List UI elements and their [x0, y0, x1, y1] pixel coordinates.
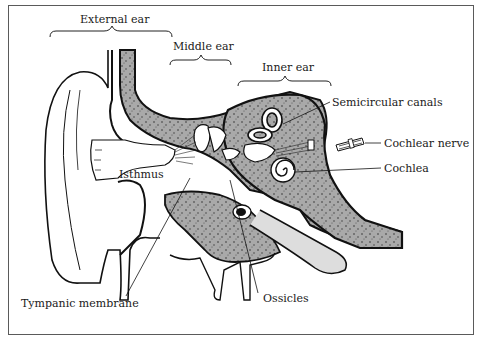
label-semicircular-canals: Semicircular canals	[332, 97, 443, 108]
label-cochlear-nerve: Cochlear nerve	[384, 138, 469, 149]
label-tympanic-membrane: Tympanic membrane	[21, 298, 139, 309]
round-window	[233, 205, 251, 219]
label-external-ear: External ear	[80, 14, 149, 25]
label-middle-ear: Middle ear	[173, 41, 234, 52]
label-cochlea: Cochlea	[384, 163, 429, 174]
cochlea	[271, 158, 295, 182]
brace-middle-ear	[170, 55, 231, 65]
cochlear-nerve-stub	[336, 138, 364, 151]
brace-external-ear	[50, 26, 172, 37]
label-inner-ear: Inner ear	[262, 62, 314, 73]
label-ossicles: Ossicles	[263, 293, 309, 304]
brace-inner-ear	[238, 76, 331, 86]
label-isthmus: Isthmus	[119, 169, 164, 180]
